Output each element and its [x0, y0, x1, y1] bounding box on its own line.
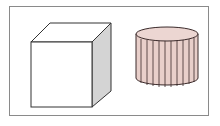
shapes-canvas [0, 0, 220, 126]
cylinder [136, 27, 198, 87]
cube [31, 23, 111, 107]
